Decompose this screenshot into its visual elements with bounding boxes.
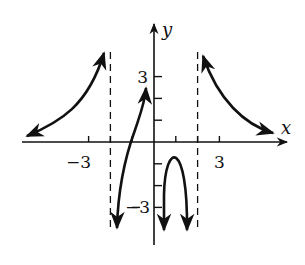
x-axis-label: x [281,117,291,138]
x-tick-label: −3 [66,152,91,172]
curve-right-branch [203,56,273,133]
x-tick-label: 3 [214,152,225,172]
y-tick-label: 3 [137,67,148,87]
plot-area: −333−3xy [0,0,305,265]
y-axis-label: y [161,19,173,40]
curve-middle-right-branch [164,157,187,230]
graph: −333−3xy [0,0,305,265]
curve-left-branch [27,53,104,136]
